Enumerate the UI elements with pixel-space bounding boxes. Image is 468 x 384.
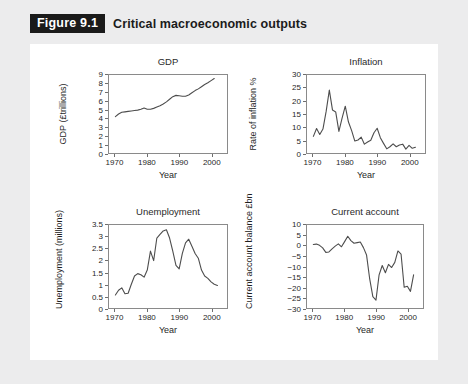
x-tick-label-current-account: 2000 — [399, 313, 417, 322]
plot-area-current-account — [306, 224, 424, 309]
y-tick-current-account — [303, 277, 306, 278]
x-tick-current-account — [312, 309, 313, 312]
y-axis-title-inflation: Rate of inflation % — [248, 74, 258, 154]
x-tick-unemployment — [147, 309, 148, 312]
x-tick-current-account — [408, 309, 409, 312]
x-tick-gdp — [212, 154, 213, 157]
y-tick-inflation — [303, 74, 306, 75]
x-tick-gdp — [114, 154, 115, 157]
y-tick-current-account — [303, 245, 306, 246]
y-tick-unemployment — [105, 224, 108, 225]
plot-area-unemployment — [108, 224, 228, 309]
y-axis-title-unemployment: Unemployment (millions) — [54, 224, 64, 309]
x-tick-label-unemployment: 1990 — [170, 313, 188, 322]
x-tick-gdp — [179, 154, 180, 157]
figure-panel: GDP01234567891970198019902000YearGDP (£t… — [30, 44, 438, 360]
y-tick-inflation — [303, 127, 306, 128]
x-axis-title-current-account: Year — [306, 325, 424, 335]
x-tick-current-account — [344, 309, 345, 312]
y-tick-unemployment — [105, 309, 108, 310]
y-tick-current-account — [303, 309, 306, 310]
chart-title-gdp: GDP — [108, 56, 228, 67]
x-tick-label-inflation: 1970 — [304, 158, 322, 167]
x-tick-unemployment — [179, 309, 180, 312]
y-axis-title-current-account: Current account balance £bn — [244, 224, 254, 309]
x-tick-inflation — [345, 154, 346, 157]
y-tick-gdp — [105, 145, 108, 146]
data-series-unemployment — [115, 230, 217, 295]
y-tick-current-account — [303, 267, 306, 268]
x-tick-inflation — [377, 154, 378, 157]
x-tick-label-gdp: 1970 — [106, 158, 124, 167]
x-tick-label-inflation: 1990 — [368, 158, 386, 167]
figure-caption: Critical macroeconomic outputs — [113, 17, 307, 31]
y-tick-unemployment — [105, 236, 108, 237]
y-axis-title-gdp: GDP (£trillions) — [58, 74, 68, 154]
x-tick-label-gdp: 1980 — [138, 158, 156, 167]
x-tick-inflation — [410, 154, 411, 157]
chart-unemployment: Unemployment00.511.522.533.5197019801990… — [54, 206, 242, 343]
chart-title-unemployment: Unemployment — [108, 206, 228, 217]
chart-inflation: Inflation0510152025301970198019902000Yea… — [248, 56, 440, 188]
x-tick-current-account — [376, 309, 377, 312]
y-tick-unemployment — [105, 248, 108, 249]
x-tick-label-inflation: 2000 — [401, 158, 419, 167]
x-tick-gdp — [147, 154, 148, 157]
figure-number-badge: Figure 9.1 — [30, 14, 105, 33]
x-tick-unemployment — [114, 309, 115, 312]
chart-current-account: Current account−30−25−20−15−10−505101970… — [244, 206, 438, 343]
x-tick-unemployment — [212, 309, 213, 312]
y-tick-gdp — [105, 136, 108, 137]
figure-root: Figure 9.1 Critical macroeconomic output… — [0, 0, 468, 384]
x-tick-label-inflation: 1980 — [336, 158, 354, 167]
x-axis-title-gdp: Year — [108, 170, 228, 180]
y-tick-gdp — [105, 127, 108, 128]
x-tick-label-unemployment: 2000 — [203, 313, 221, 322]
y-tick-gdp — [105, 110, 108, 111]
y-tick-gdp — [105, 154, 108, 155]
data-series-gdp — [115, 78, 214, 116]
y-tick-inflation — [303, 101, 306, 102]
chart-gdp: GDP01234567891970198019902000YearGDP (£t… — [58, 56, 242, 188]
x-tick-label-gdp: 1990 — [170, 158, 188, 167]
x-tick-label-current-account: 1990 — [367, 313, 385, 322]
y-tick-current-account — [303, 288, 306, 289]
plot-area-inflation — [306, 74, 426, 154]
y-tick-unemployment — [105, 273, 108, 274]
y-tick-gdp — [105, 92, 108, 93]
y-tick-gdp — [105, 101, 108, 102]
y-tick-current-account — [303, 224, 306, 225]
x-axis-title-inflation: Year — [306, 170, 426, 180]
y-tick-current-account — [303, 235, 306, 236]
x-tick-label-unemployment: 1970 — [106, 313, 124, 322]
y-tick-gdp — [105, 118, 108, 119]
y-tick-unemployment — [105, 297, 108, 298]
x-axis-title-unemployment: Year — [108, 325, 228, 335]
x-tick-label-gdp: 2000 — [203, 158, 221, 167]
data-series-current-account — [313, 236, 413, 300]
y-tick-unemployment — [105, 285, 108, 286]
data-series-inflation — [313, 90, 415, 149]
y-tick-inflation — [303, 141, 306, 142]
y-tick-inflation — [303, 114, 306, 115]
chart-title-inflation: Inflation — [306, 56, 426, 67]
y-tick-current-account — [303, 256, 306, 257]
figure-header: Figure 9.1 Critical macroeconomic output… — [30, 14, 307, 33]
y-tick-inflation — [303, 154, 306, 155]
y-tick-gdp — [105, 83, 108, 84]
y-tick-gdp — [105, 74, 108, 75]
y-tick-inflation — [303, 87, 306, 88]
chart-title-current-account: Current account — [306, 206, 424, 217]
x-tick-inflation — [312, 154, 313, 157]
x-tick-label-current-account: 1970 — [303, 313, 321, 322]
plot-area-gdp — [108, 74, 228, 154]
y-tick-current-account — [303, 298, 306, 299]
x-tick-label-current-account: 1980 — [335, 313, 353, 322]
x-tick-label-unemployment: 1980 — [138, 313, 156, 322]
y-tick-unemployment — [105, 260, 108, 261]
